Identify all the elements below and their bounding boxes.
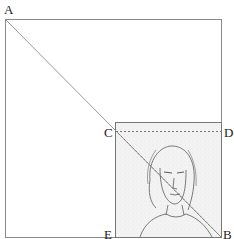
diagram-figure: A B C D E [0,0,234,239]
label-e: E [104,228,112,239]
label-a: A [4,3,13,16]
label-b: B [223,228,232,239]
label-c: C [104,126,113,139]
label-d: D [224,126,233,139]
diagram-lines [0,0,234,239]
